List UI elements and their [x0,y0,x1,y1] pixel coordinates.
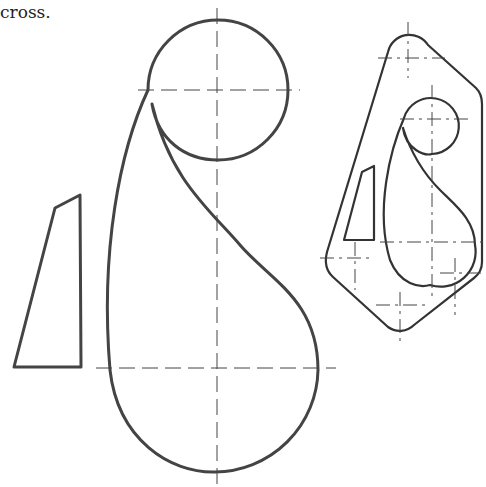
trapezoid-shape [14,195,81,367]
paisley-outline [107,20,318,472]
template-trapezoid [344,166,374,240]
template-outline [326,35,482,331]
template-figure [320,22,486,345]
template-paisley [384,98,476,287]
paisley-figure [96,8,336,487]
drawing-canvas [0,0,486,487]
